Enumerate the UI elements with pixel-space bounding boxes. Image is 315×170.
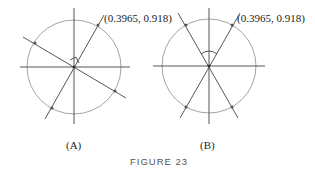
panel-b-diagram [153, 8, 265, 124]
figure-canvas [0, 0, 315, 170]
panel-b-point-label: (0.3965, 0.918) [237, 12, 305, 24]
panel-b-label: (B) [200, 139, 215, 151]
panel-a-diagram [20, 8, 130, 124]
panel-a-label: (A) [66, 139, 81, 151]
panel-a-point-label: (0.3965, 0.918) [104, 12, 172, 24]
figure-caption: FIGURE 23 [130, 156, 188, 167]
